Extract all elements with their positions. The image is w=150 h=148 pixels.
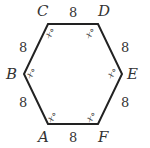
- angle-label-D: x°: [84, 27, 97, 40]
- side-label-AB: 8: [19, 95, 27, 110]
- side-label-BC: 8: [19, 40, 27, 55]
- vertex-label-C: C: [37, 2, 49, 20]
- vertex-label-A: A: [36, 128, 49, 146]
- angle-label-E: x°: [106, 67, 119, 80]
- vertex-label-F: F: [97, 128, 109, 146]
- hexagon-diagram: C D B E A F 8 8 8 8 8 8 x° x° x° x° x° x…: [0, 0, 150, 148]
- vertex-label-B: B: [5, 65, 17, 83]
- angle-label-F: x°: [85, 111, 98, 124]
- side-label-EF: 8: [121, 95, 129, 110]
- vertex-label-E: E: [126, 65, 138, 83]
- side-label-FA: 8: [69, 130, 77, 145]
- side-label-CD: 8: [69, 5, 77, 20]
- side-label-DE: 8: [121, 40, 129, 55]
- vertex-label-D: D: [97, 2, 110, 20]
